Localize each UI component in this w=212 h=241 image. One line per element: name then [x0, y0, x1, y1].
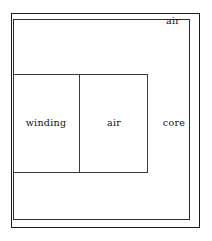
label-air-inner: air: [84, 118, 144, 128]
label-winding: winding: [16, 118, 76, 128]
label-core: core: [152, 118, 196, 128]
divider-winding-air: [79, 74, 80, 173]
region-diagram-figure: air winding air core: [0, 0, 212, 241]
label-air-outer: air: [150, 16, 196, 26]
